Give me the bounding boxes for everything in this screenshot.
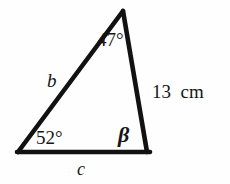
side-label-13-cm: 13 cm <box>152 82 204 101</box>
angle-label-bottom-left: 52° <box>36 128 63 147</box>
figure-canvas: 47° 52° β b c 13 cm <box>0 0 230 184</box>
angle-label-beta: β <box>118 124 129 146</box>
side-label-b: b <box>47 71 57 90</box>
side-label-c: c <box>77 160 85 178</box>
angle-label-apex: 47° <box>97 30 124 49</box>
